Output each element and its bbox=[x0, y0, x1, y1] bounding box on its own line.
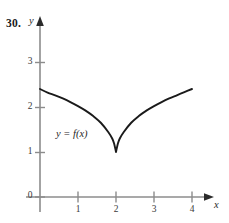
curve-equation-label: y = f(x) bbox=[56, 128, 88, 139]
y-axis-label: y bbox=[29, 15, 34, 26]
figure-panel: 30. 3 2 1 0 1 2 3 4 y x y = f(x) bbox=[0, 0, 229, 223]
x-axis-arrowhead bbox=[204, 193, 214, 201]
x-tick-label-2: 2 bbox=[110, 204, 122, 214]
y-axis-arrowhead bbox=[36, 16, 44, 26]
function-curve bbox=[40, 89, 192, 152]
y-tick-label-0: 0 bbox=[24, 190, 36, 200]
y-tick-label-1: 1 bbox=[24, 146, 36, 156]
y-tick-label-2: 2 bbox=[24, 101, 36, 111]
x-tick-label-3: 3 bbox=[148, 204, 160, 214]
x-tick-label-4: 4 bbox=[186, 204, 198, 214]
x-tick-label-1: 1 bbox=[72, 204, 84, 214]
y-tick-label-3: 3 bbox=[24, 56, 36, 66]
x-axis-label: x bbox=[214, 199, 219, 210]
